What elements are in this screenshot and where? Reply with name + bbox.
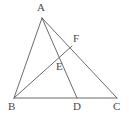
triangle-outline xyxy=(14,18,117,98)
vertex-label-f: F xyxy=(73,33,79,44)
cevians xyxy=(14,18,77,98)
segment-AC xyxy=(42,18,117,98)
vertex-label-b: B xyxy=(8,101,15,112)
segment-AD xyxy=(42,18,77,98)
vertex-label-e: E xyxy=(56,61,63,72)
geometry-canvas xyxy=(0,0,129,119)
vertex-label-c: C xyxy=(113,101,120,112)
vertex-label-a: A xyxy=(37,2,45,13)
vertex-label-d: D xyxy=(73,101,81,112)
geometry-figure: A B C D E F xyxy=(0,0,129,119)
